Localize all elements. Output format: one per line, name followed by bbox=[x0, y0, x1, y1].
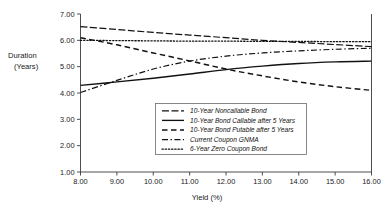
y-tick-label: 7.00 bbox=[60, 10, 74, 19]
x-tick-label: 14.00 bbox=[290, 177, 309, 186]
x-tick-label: 9.00 bbox=[110, 177, 124, 186]
duration-yield-chart: 1.002.003.004.005.006.007.00 8.009.0010.… bbox=[0, 0, 392, 210]
y-tick-label: 1.00 bbox=[60, 168, 74, 177]
x-tick-label: 13.00 bbox=[253, 177, 272, 186]
x-tick-label: 11.00 bbox=[181, 177, 199, 186]
y-tick-label: 4.00 bbox=[60, 89, 74, 98]
y-tick-label: 6.00 bbox=[60, 36, 74, 45]
x-tick-label: 16.00 bbox=[362, 177, 381, 186]
series-line-4 bbox=[81, 40, 372, 41]
series-line-1 bbox=[81, 61, 372, 85]
x-axis-title: Yield (%) bbox=[192, 193, 223, 202]
y-tick-label: 3.00 bbox=[60, 115, 74, 124]
chart-canvas: 1.002.003.004.005.006.007.00 8.009.0010.… bbox=[0, 0, 392, 210]
series-group bbox=[81, 27, 372, 93]
legend-label-1: 10-Year Bond Callable after 5 Years bbox=[190, 117, 296, 124]
y-tick-label: 2.00 bbox=[60, 141, 74, 150]
legend-label-3: Current Coupon GNMA bbox=[190, 136, 259, 144]
series-line-0 bbox=[81, 27, 372, 47]
x-tick-label: 12.00 bbox=[217, 177, 236, 186]
x-tick-group: 8.009.0010.0011.0012.0013.0014.0015.0016… bbox=[73, 172, 380, 186]
series-line-2 bbox=[81, 38, 372, 91]
legend: 10-Year Noncallable Bond10-Year Bond Cal… bbox=[156, 104, 307, 155]
x-tick-label: 8.00 bbox=[73, 177, 87, 186]
y-axis-title-line1: Duration bbox=[8, 51, 37, 60]
legend-label-0: 10-Year Noncallable Bond bbox=[190, 107, 267, 114]
y-tick-group: 1.002.003.004.005.006.007.00 bbox=[60, 10, 80, 177]
y-tick-label: 5.00 bbox=[60, 62, 74, 71]
x-tick-label: 10.00 bbox=[144, 177, 163, 186]
legend-label-4: 6-Year Zero Coupon Bond bbox=[190, 145, 267, 153]
y-axis-title-line2: (Years) bbox=[14, 62, 39, 71]
legend-label-2: 10-Year Bond Putable after 5 Years bbox=[190, 126, 294, 133]
x-tick-label: 15.00 bbox=[326, 177, 345, 186]
